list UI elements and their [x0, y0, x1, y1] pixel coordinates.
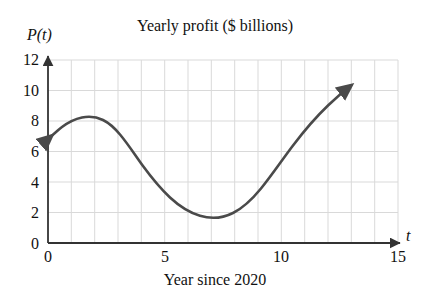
chart-plot-area: [0, 0, 430, 303]
grid-horizontal-lines: [48, 60, 398, 213]
chart-figure: Yearly profit ($ billions) P(t) t Year s…: [0, 0, 430, 303]
